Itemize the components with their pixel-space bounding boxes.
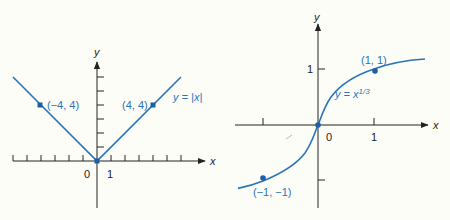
function-label: y = |x| xyxy=(172,91,202,103)
cube-root-plot: y x 0 1 1 (1, 1) (−1, −1) y = x1/3 xyxy=(235,11,439,208)
abs-value-plot: y x 0 1 (−4, 4) (4, 4) y = |x| xyxy=(13,46,216,208)
point-origin xyxy=(95,159,100,164)
point-1-1 xyxy=(372,68,378,74)
x-axis-label: x xyxy=(432,119,439,131)
origin-label: 0 xyxy=(326,131,332,143)
point-pos-label: (4, 4) xyxy=(122,99,148,111)
point-4-4 xyxy=(151,103,156,108)
point-pos-label: (1, 1) xyxy=(361,54,387,66)
point-neg1-neg1 xyxy=(260,175,266,181)
function-label: y = x1/3 xyxy=(334,87,370,100)
scan-mark xyxy=(286,135,292,139)
y-ticks xyxy=(97,77,104,147)
figure: y x 0 1 (−4, 4) (4, 4) y = |x| y x 0 1 1 xyxy=(0,0,450,220)
cube-root-curve xyxy=(238,59,425,188)
y-axis-label: y xyxy=(313,11,321,23)
point-origin xyxy=(315,122,321,128)
point-neg-label: (−1, −1) xyxy=(253,186,292,198)
y-axis-label: y xyxy=(93,46,101,58)
y-one-label: 1 xyxy=(307,63,313,75)
x-one-label: 1 xyxy=(107,168,113,180)
x-one-label: 1 xyxy=(371,131,377,143)
point-neg4-4 xyxy=(38,103,43,108)
origin-label: 0 xyxy=(84,168,90,180)
x-axis-label: x xyxy=(209,155,216,167)
point-neg-label: (−4, 4) xyxy=(47,99,79,111)
